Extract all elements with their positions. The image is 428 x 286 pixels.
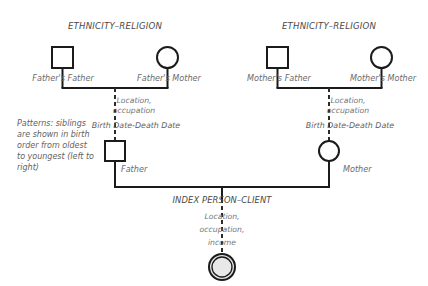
label-mothers-father: Mother's Father — [247, 74, 311, 84]
paternal-ethnicity-religion-heading: ETHNICITY–RELIGION — [68, 21, 162, 31]
maternal-ethnicity-religion-heading: ETHNICITY–RELIGION — [282, 21, 376, 31]
maternal-union-dates: Birth Date-Death Date — [306, 121, 394, 130]
paternal-union-dates: Birth Date-Death Date — [92, 121, 180, 130]
label-fathers-mother: Father's Mother — [137, 74, 201, 84]
label-mother: Mother — [343, 165, 372, 175]
maternal-union-detail-line2: occupation — [327, 106, 369, 116]
label-mothers-mother: Mother's Mother — [350, 74, 416, 84]
symbol-fathers-mother-circle — [157, 47, 178, 68]
paternal-union-detail-line2: occupation — [113, 106, 155, 116]
index-detail-line1: Location, — [204, 212, 239, 222]
label-index-person: INDEX PERSON–CLIENT — [173, 196, 272, 206]
genogram-diagram: ETHNICITY–RELIGION ETHNICITY–RELIGION Fa… — [0, 0, 428, 286]
label-father: Father — [121, 165, 147, 175]
paternal-union-detail-line1: Location, — [116, 96, 151, 106]
label-fathers-father: Father's Father — [32, 74, 93, 84]
symbol-fathers-father-square — [52, 47, 73, 68]
symbol-father-square — [105, 141, 125, 161]
symbol-index-person-inner-circle — [212, 257, 232, 277]
maternal-union-detail-line1: Location, — [330, 96, 365, 106]
index-detail-line3: income — [208, 238, 236, 248]
symbol-mothers-mother-circle — [371, 47, 392, 68]
patterns-note: Patterns: siblings are shown in birth or… — [17, 118, 95, 173]
index-detail-line2: occupation, — [200, 225, 245, 235]
symbol-mothers-father-square — [267, 47, 288, 68]
symbol-mother-circle — [319, 141, 339, 161]
